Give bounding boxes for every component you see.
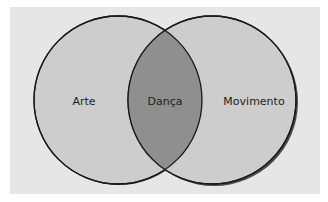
label-arte: Arte [72, 95, 95, 108]
label-danca: Dança [148, 95, 183, 108]
venn-diagram: Arte Dança Movimento [0, 0, 328, 202]
label-movimento: Movimento [223, 95, 285, 108]
